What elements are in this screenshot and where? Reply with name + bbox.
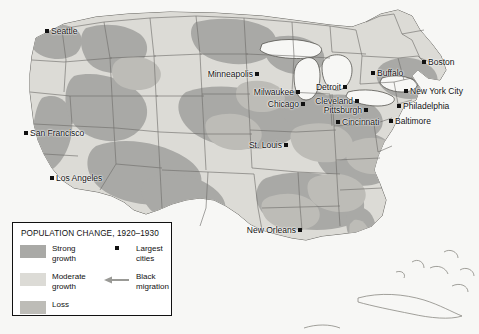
moderate-growth-label-line1: Moderate — [52, 272, 86, 281]
city-marker — [296, 90, 300, 94]
city-label: Philadelphia — [403, 102, 449, 111]
city-marker — [50, 176, 54, 180]
moderate-growth-swatch — [20, 273, 46, 286]
map-legend: POPULATION CHANGE, 1920–1930 Strong grow… — [12, 222, 172, 316]
black-migration-label-line2: migration — [136, 282, 169, 291]
loss-label-line1: Loss — [52, 300, 69, 309]
city-marker — [371, 71, 375, 75]
city-label: Baltimore — [395, 117, 431, 126]
city-label: Pittsburgh — [324, 106, 362, 115]
dot-icon — [104, 246, 130, 250]
city-label: Los Angeles — [56, 174, 102, 183]
city-marker — [45, 29, 49, 33]
largest-cities-label-line2: cities — [136, 254, 154, 263]
city-label: Cincinnati — [342, 118, 379, 127]
city-label: San Francisco — [30, 129, 84, 138]
legend-symbol-column: Largest cities Black migration — [104, 244, 164, 322]
loss-swatch — [20, 301, 46, 314]
black-migration-label-line1: Black — [136, 272, 156, 281]
legend-title: POPULATION CHANGE, 1920–1930 — [21, 229, 164, 238]
black-migration-label: Black migration — [136, 272, 169, 291]
city-label: Minneapolis — [208, 70, 253, 79]
city-label: Boston — [428, 58, 454, 67]
city-marker — [24, 131, 28, 135]
largest-cities-label: Largest cities — [136, 244, 163, 263]
legend-item-moderate-growth: Moderate growth — [20, 272, 98, 294]
city-label: Milwaukee — [254, 88, 294, 97]
city-marker — [298, 228, 302, 232]
city-marker — [422, 60, 426, 64]
population-change-map: SeattleSan FranciscoLos AngelesMinneapol… — [0, 0, 479, 334]
city-label: Seattle — [51, 27, 77, 36]
left-arrow-icon — [104, 276, 130, 284]
city-marker — [284, 143, 288, 147]
strong-growth-swatch — [20, 245, 46, 258]
city-label: Chicago — [268, 100, 299, 109]
city-label: New York City — [410, 87, 463, 96]
city-marker — [404, 89, 408, 93]
city-marker — [343, 85, 347, 89]
city-label: New Orleans — [247, 226, 296, 235]
city-marker — [255, 72, 259, 76]
largest-cities-label-line1: Largest — [136, 244, 163, 253]
legend-item-strong-growth: Strong growth — [20, 244, 98, 266]
city-marker — [397, 104, 401, 108]
loss-label: Loss — [52, 300, 69, 310]
city-label: St. Louis — [249, 141, 282, 150]
city-marker — [364, 108, 368, 112]
city-label: Detroit — [316, 83, 341, 92]
city-marker — [389, 119, 393, 123]
city-marker — [301, 102, 305, 106]
moderate-growth-label: Moderate growth — [52, 272, 86, 291]
strong-growth-label-line1: Strong — [52, 244, 76, 253]
moderate-growth-label-line2: growth — [52, 282, 76, 291]
legend-item-black-migration: Black migration — [104, 272, 164, 294]
city-marker — [355, 99, 359, 103]
strong-growth-label-line2: growth — [52, 254, 76, 263]
legend-item-loss: Loss — [20, 300, 98, 322]
city-marker — [336, 120, 340, 124]
city-label: Buffalo — [377, 69, 403, 78]
legend-swatch-column: Strong growth Moderate growth Loss — [20, 244, 98, 322]
legend-item-largest-cities: Largest cities — [104, 244, 164, 266]
strong-growth-label: Strong growth — [52, 244, 76, 263]
